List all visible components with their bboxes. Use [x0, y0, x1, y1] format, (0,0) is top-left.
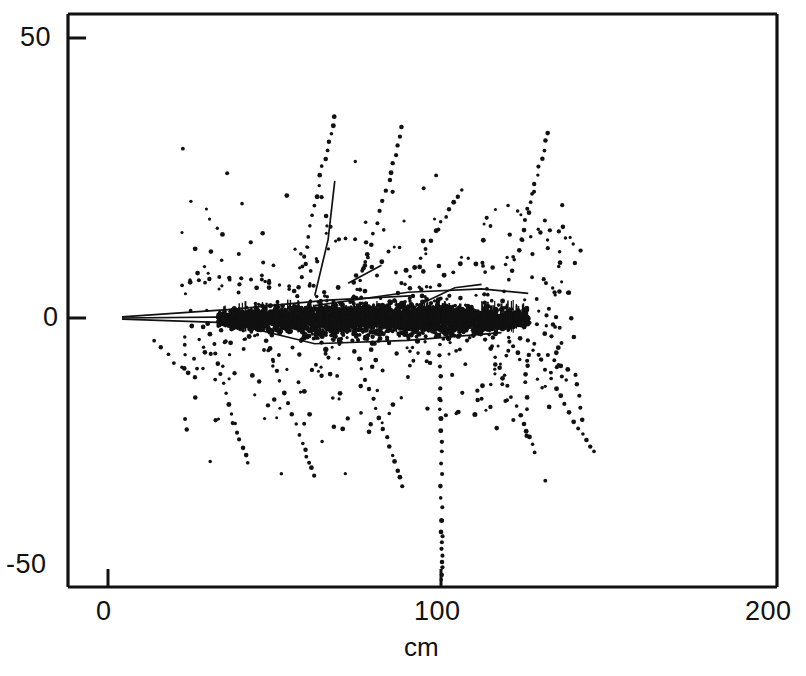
y-tick-label-50: 50 [20, 24, 51, 51]
data-layer [122, 114, 596, 581]
x-tick-label-100: 100 [414, 598, 461, 625]
x-tick-label-200: 200 [745, 598, 792, 625]
y-tick-label-0: 0 [43, 304, 59, 331]
x-axis-title: cm [404, 634, 439, 660]
y-tick-label-neg50: -50 [6, 551, 47, 578]
x-tick-label-0: 0 [96, 598, 112, 625]
plot-canvas: 50 0 -50 0 100 200 cm [0, 0, 806, 676]
scatter-plot [0, 0, 806, 676]
